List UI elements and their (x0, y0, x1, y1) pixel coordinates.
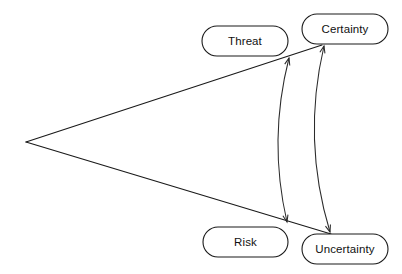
threat-node-label: Threat (228, 35, 263, 47)
wedge-upper-ray (26, 45, 322, 142)
risk-node-label: Risk (234, 236, 257, 248)
diagram-canvas: Threat Certainty Risk Uncertainty (0, 0, 402, 274)
node-risk[interactable]: Risk (203, 227, 288, 257)
node-uncertainty[interactable]: Uncertainty (302, 234, 388, 264)
inner-curved-arrow (278, 58, 289, 222)
node-threat[interactable]: Threat (202, 26, 288, 56)
certainty-node-label: Certainty (322, 23, 369, 35)
uncertainty-node-label: Uncertainty (315, 243, 374, 255)
outer-curved-arrow (314, 46, 330, 232)
node-certainty[interactable]: Certainty (302, 14, 388, 44)
curved-arrows-group (278, 46, 330, 232)
diagram-svg: Threat Certainty Risk Uncertainty (0, 0, 402, 274)
